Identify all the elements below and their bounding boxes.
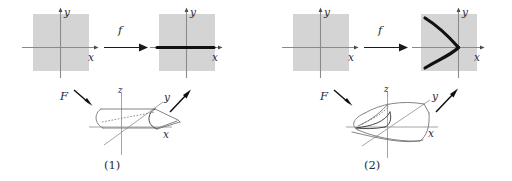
surface-y-axis-label: y — [431, 90, 439, 102]
source-x-axis-label: x — [88, 51, 94, 63]
figure-root: x y f x y F — [0, 0, 512, 181]
panel-1-fold-surface: z x y — [89, 85, 180, 155]
target-x-axis-arrowhead — [480, 46, 485, 50]
source-y-axis-arrowhead — [319, 8, 323, 13]
panel-1-map-arrow: f — [104, 23, 148, 51]
surface-x-axis-label: x — [428, 127, 434, 139]
panel-1-number: (1) — [104, 158, 120, 172]
target-x-axis-label: x — [212, 51, 218, 63]
panel-1: x y f x y F — [22, 6, 223, 172]
panel-2-number: (2) — [364, 158, 380, 172]
panel-2-source-plane: x y — [282, 6, 359, 78]
fold-upper-extension — [155, 109, 178, 120]
source-x-axis-arrowhead — [354, 46, 359, 50]
surface-y-axis — [362, 100, 430, 146]
lift-label-F: F — [59, 89, 69, 103]
source-y-axis-label: y — [63, 6, 71, 18]
panel-1-source-plane: x y — [22, 6, 99, 78]
source-y-axis-label: y — [323, 6, 331, 18]
source-y-axis-arrowhead — [59, 8, 63, 13]
cusp-upper-fold-curve — [358, 104, 388, 126]
fold-extension-cap — [178, 120, 180, 122]
map-arrow-head — [399, 44, 408, 52]
lift-label-F: F — [319, 89, 329, 103]
target-y-axis-arrowhead — [457, 8, 461, 13]
map-label-f: f — [117, 23, 124, 37]
surface-x-axis-label: x — [163, 128, 169, 140]
fold-hidden-crease — [102, 112, 155, 122]
source-x-axis-arrowhead — [94, 46, 99, 50]
panel-1-target-plane: x y — [150, 6, 223, 78]
target-y-axis-label: y — [461, 6, 469, 18]
target-y-axis-label: y — [189, 6, 197, 18]
panel-2-projection-arrow — [436, 89, 458, 113]
target-x-axis-label: x — [474, 51, 480, 63]
surface-y-axis — [104, 102, 163, 145]
surface-y-axis-label: y — [163, 91, 171, 103]
panel-1-projection-arrow — [170, 90, 191, 113]
map-label-f: f — [377, 23, 384, 37]
panel-2-cusp-surface: z x y — [346, 84, 439, 158]
cusp-back-right-edge — [424, 104, 429, 113]
singularity-figure: x y f x y F — [0, 0, 512, 181]
surface-z-axis-label: z — [117, 85, 123, 95]
source-x-axis-label: x — [348, 51, 354, 63]
panel-2-lift-arrow: F — [319, 89, 353, 106]
panel-1-lift-arrow: F — [59, 89, 93, 106]
map-arrow-head — [139, 44, 148, 52]
fold-left-profile — [96, 109, 103, 128]
target-y-axis-arrowhead — [185, 8, 189, 13]
panel-2-map-arrow: f — [364, 23, 408, 51]
cusp-hidden-fold — [362, 106, 389, 124]
panel-2: x y f x y F — [282, 6, 485, 172]
cusp-top-back-edge — [365, 102, 424, 113]
surface-z-axis-label: z — [383, 84, 389, 94]
panel-2-target-plane: x y — [412, 6, 485, 78]
target-x-axis-arrowhead — [218, 46, 223, 50]
